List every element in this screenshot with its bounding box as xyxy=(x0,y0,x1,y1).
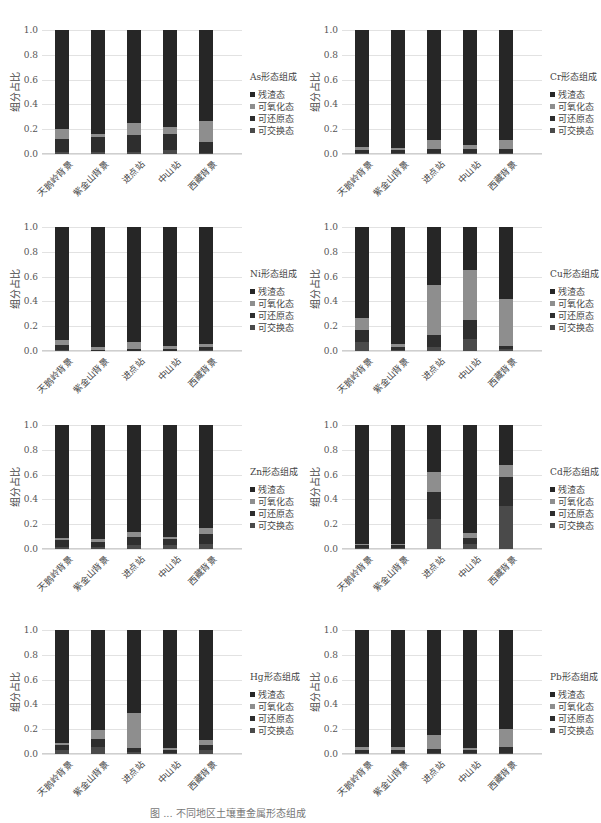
stacked-bar xyxy=(427,227,441,351)
chart-panel-pb: 1.00.80.60.40.20.0组分占比天鹅岭背景紫金山背景进点站中山站西藏… xyxy=(300,600,600,800)
legend-swatch-icon xyxy=(250,716,255,721)
stacked-bar xyxy=(199,425,213,549)
legend-swatch-icon xyxy=(250,128,255,133)
bar-segment xyxy=(427,472,441,492)
y-tick-label: 0.0 xyxy=(12,544,38,554)
bar-segment xyxy=(127,630,141,713)
bar-segment xyxy=(55,750,69,754)
bar-segment xyxy=(427,753,441,754)
bar-segment xyxy=(355,548,369,549)
plot-area: 1.00.80.60.40.20.0组分占比天鹅岭背景紫金山背景进点站中山站西藏… xyxy=(342,630,542,754)
bar-segment xyxy=(391,425,405,544)
stacked-bar xyxy=(127,630,141,754)
x-tick-label: 进点站 xyxy=(119,355,147,383)
legend-item: 残渣态 xyxy=(550,285,601,297)
y-axis-label: 组分占比 xyxy=(7,672,22,712)
legend-label: 可交换态 xyxy=(258,519,294,532)
bar-segment xyxy=(499,465,513,477)
bar-segment xyxy=(463,153,477,154)
legend-swatch-icon xyxy=(250,728,255,733)
bar-segment xyxy=(499,30,513,140)
bar-segment xyxy=(127,537,141,546)
y-tick-label: 0.0 xyxy=(12,749,38,759)
stacked-bar xyxy=(163,30,177,154)
legend-swatch-icon xyxy=(550,716,555,721)
y-tick-label: 0.2 xyxy=(12,519,38,529)
legend-item: 可交换态 xyxy=(550,321,601,333)
bar-segment xyxy=(199,544,213,549)
legend-swatch-icon xyxy=(250,289,255,294)
y-tick-label: 1.0 xyxy=(12,222,38,232)
bar-segment xyxy=(55,425,69,538)
legend-swatch-icon xyxy=(550,289,555,294)
y-tick-label: 0.8 xyxy=(312,247,338,257)
legend-label: 可交换态 xyxy=(558,519,594,532)
y-tick-label: 0.0 xyxy=(312,149,338,159)
chart-panel-cu: 1.00.80.60.40.20.0组分占比天鹅岭背景紫金山背景进点站中山站西藏… xyxy=(300,197,600,397)
stacked-bar xyxy=(55,30,69,154)
y-tick-label: 0.0 xyxy=(312,346,338,356)
bar-segment xyxy=(499,729,513,746)
legend-title: Cu形态组成 xyxy=(550,267,601,280)
bar-segment xyxy=(391,753,405,754)
plot-area: 1.00.80.60.40.20.0组分占比天鹅岭背景紫金山背景进点站中山站西藏… xyxy=(342,30,542,154)
legend-item: 可交换态 xyxy=(550,724,601,736)
legend-item: 可氧化态 xyxy=(550,100,601,112)
stacked-bar xyxy=(355,630,369,754)
y-axis-label: 组分占比 xyxy=(7,467,22,507)
bar-segment xyxy=(391,30,405,148)
bar-segment xyxy=(91,425,105,539)
legend-label: 可交换态 xyxy=(558,321,594,334)
stacked-bar xyxy=(355,30,369,154)
y-axis-label: 组分占比 xyxy=(307,72,322,112)
legend-title: Cr形态组成 xyxy=(550,70,601,83)
y-tick-label: 1.0 xyxy=(12,625,38,635)
chart-panel-cd: 1.00.80.60.40.20.0组分占比天鹅岭背景紫金山背景进点站中山站西藏… xyxy=(300,395,600,595)
x-tick-label: 西藏背景 xyxy=(185,355,220,390)
bar-segment xyxy=(199,153,213,154)
legend-swatch-icon xyxy=(250,92,255,97)
x-tick-label: 紫金山背景 xyxy=(370,355,411,396)
x-tick-label: 紫金山背景 xyxy=(70,758,111,799)
stacked-bar xyxy=(391,227,405,351)
bar-segment xyxy=(163,227,177,346)
x-tick-label: 进点站 xyxy=(419,355,447,383)
legend-swatch-icon xyxy=(550,499,555,504)
x-tick-label: 西藏背景 xyxy=(485,758,520,793)
bar-segment xyxy=(199,227,213,344)
x-tick-label: 天鹅岭背景 xyxy=(34,553,75,594)
x-tick-label: 进点站 xyxy=(119,553,147,581)
legend-swatch-icon xyxy=(250,116,255,121)
x-tick-label: 天鹅岭背景 xyxy=(334,355,375,396)
legend-swatch-icon xyxy=(250,313,255,318)
legend-item: 可氧化态 xyxy=(550,297,601,309)
legend-swatch-icon xyxy=(250,523,255,528)
x-tick-label: 紫金山背景 xyxy=(370,553,411,594)
y-tick-label: 0.2 xyxy=(312,724,338,734)
legend-swatch-icon xyxy=(250,511,255,516)
legend-item: 可还原态 xyxy=(550,712,601,724)
bar-segment xyxy=(391,548,405,549)
legend-item: 残渣态 xyxy=(550,88,601,100)
y-tick-label: 0.8 xyxy=(312,650,338,660)
y-tick-label: 0.0 xyxy=(312,544,338,554)
legend-swatch-icon xyxy=(250,704,255,709)
stacked-bar xyxy=(427,30,441,154)
stacked-bar xyxy=(463,425,477,549)
bar-segment xyxy=(391,630,405,747)
legend-swatch-icon xyxy=(550,128,555,133)
bar-segment xyxy=(391,227,405,344)
bar-segment xyxy=(55,152,69,154)
y-tick-label: 0.2 xyxy=(12,321,38,331)
bar-segment xyxy=(91,739,105,746)
bar-segment xyxy=(55,227,69,340)
legend-item: 可氧化态 xyxy=(550,495,601,507)
x-tick-label: 紫金山背景 xyxy=(70,553,111,594)
plot-area: 1.00.80.60.40.20.0组分占比天鹅岭背景紫金山背景进点站中山站西藏… xyxy=(42,630,242,754)
x-tick-label: 中山站 xyxy=(155,553,183,581)
stacked-bar xyxy=(463,227,477,351)
bar-segment xyxy=(355,630,369,747)
legend-swatch-icon xyxy=(250,499,255,504)
stacked-bar xyxy=(355,227,369,351)
gridline xyxy=(342,549,542,550)
